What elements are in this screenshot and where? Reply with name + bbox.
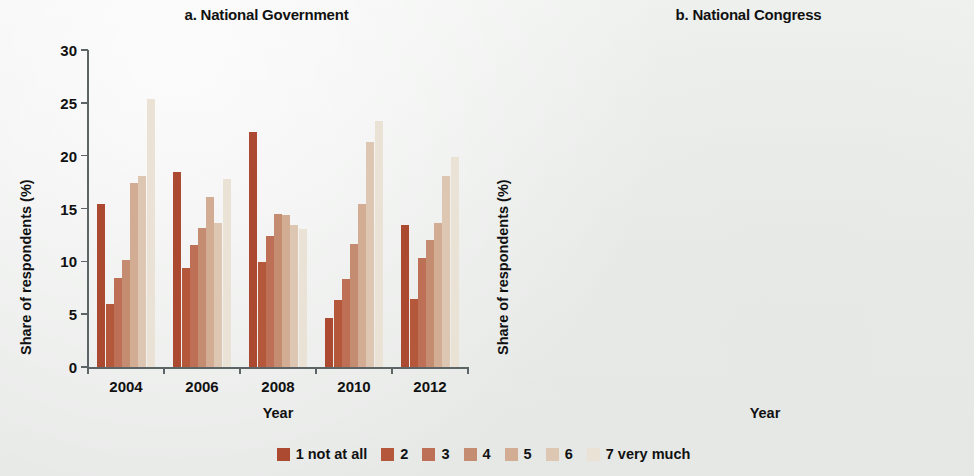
y-tick-label-15: 15 [60,200,77,217]
legend-swatch-icon [422,448,435,461]
bar [282,215,290,367]
panel-national-government: a. National Government Share of responde… [0,0,487,440]
bar [418,258,426,367]
legend-swatch-icon [546,448,559,461]
y-tick-10 [81,261,88,263]
bar [426,240,434,367]
panel-a-y-axis-title: Share of respondents (%) [18,179,34,355]
bar [410,299,418,367]
bar [214,223,222,367]
bar [130,183,138,367]
bar [114,278,122,367]
bar [350,244,358,367]
bar [147,99,155,367]
bar [266,236,274,367]
bar [366,142,374,367]
bar [290,225,298,367]
bar [401,225,409,367]
x-tick-end [467,367,469,374]
bar [342,279,350,367]
panel-a-title: a. National Government [0,6,487,23]
panel-b-y-axis-title: Share of respondents (%) [495,179,511,355]
y-tick-label-30: 30 [60,42,77,59]
y-tick-label-0: 0 [69,359,77,376]
legend-item: 5 [505,446,532,462]
x-tick-2010 [315,367,317,374]
legend: 1 not at all234567 very much [0,446,974,462]
bar [258,262,266,367]
x-tick-2006 [163,367,165,374]
legend-item: 4 [464,446,491,462]
y-tick-25 [81,102,88,104]
panel-b-title: b. National Congress [487,6,974,23]
bar [299,229,307,367]
y-tick-label-5: 5 [69,306,77,323]
y-tick-20 [81,155,88,157]
bar [173,172,181,367]
bar [97,204,105,367]
bar [122,260,130,367]
panel-a-x-axis-line [87,367,469,369]
y-tick-label-20: 20 [60,147,77,164]
bar [434,223,442,367]
legend-swatch-icon [505,448,518,461]
legend-label: 3 [441,446,449,462]
panel-a-plot-area: 05101520253020042006200820102012 [88,50,468,367]
bar [274,214,282,367]
y-tick-15 [81,208,88,210]
panel-b-x-axis-title: Year [725,405,805,421]
legend-label: 5 [524,446,532,462]
legend-item: 3 [422,446,449,462]
legend-label: 7 very much [606,446,691,462]
bar [190,245,198,367]
legend-swatch-icon [587,448,600,461]
x-group-label-2006: 2006 [185,378,218,395]
x-group-label-2004: 2004 [109,378,142,395]
x-tick-2004 [87,367,89,374]
bar [442,176,450,367]
x-group-label-2010: 2010 [337,378,370,395]
y-tick-30 [81,49,88,51]
bar [334,300,342,367]
legend-label: 6 [565,446,573,462]
legend-swatch-icon [381,448,394,461]
legend-item: 6 [546,446,573,462]
bar [106,304,114,367]
panel-a-x-axis-title: Year [238,405,318,421]
bar [182,268,190,367]
x-tick-2012 [391,367,393,374]
panel-national-congress: b. National Congress Share of respondent… [487,0,974,440]
bar [138,176,146,367]
legend-label: 4 [483,446,491,462]
figure-container: a. National Government Share of responde… [0,0,974,476]
bar [223,179,231,367]
legend-label: 2 [400,446,408,462]
legend-item: 7 very much [587,446,691,462]
legend-item: 2 [381,446,408,462]
y-tick-5 [81,313,88,315]
bar [375,121,383,367]
x-group-label-2008: 2008 [261,378,294,395]
y-tick-label-10: 10 [60,253,77,270]
bar [198,228,206,367]
bar [358,204,366,367]
legend-swatch-icon [464,448,477,461]
bar [249,132,257,367]
y-tick-label-25: 25 [60,94,77,111]
bar [451,157,459,367]
legend-label: 1 not at all [296,446,368,462]
bar [325,318,333,367]
x-group-label-2012: 2012 [413,378,446,395]
x-tick-2008 [239,367,241,374]
legend-item: 1 not at all [277,446,368,462]
legend-swatch-icon [277,448,290,461]
bar [206,197,214,367]
